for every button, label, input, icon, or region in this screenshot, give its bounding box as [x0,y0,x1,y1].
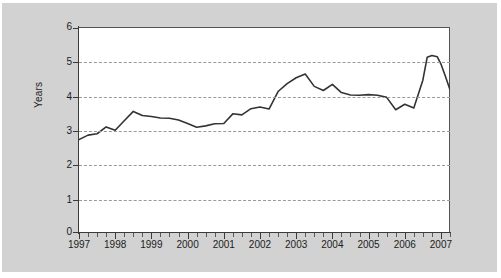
y-tick-label-4: 4 [56,92,72,102]
y-tick-label-6: 6 [56,22,72,32]
x-tick-minor [133,233,134,237]
x-tick-label-2005: 2005 [352,239,386,250]
y-tick-label-1: 1 [56,195,72,205]
x-tick-minor [350,233,351,237]
x-tick-minor [215,233,216,237]
x-tick-minor [106,233,107,237]
y-tick-label-1-wrap: 1 [56,195,72,205]
x-tick-minor [450,233,451,237]
x-tick-minor [251,233,252,237]
x-tick-label-1999: 1999 [134,239,168,250]
y-axis-line [78,26,79,234]
y-axis-title: Years [33,82,44,108]
x-tick-minor [305,233,306,237]
x-tick-minor [378,233,379,237]
y-tick-label-5-wrap: 5 [56,57,72,67]
gridline-4 [79,97,450,98]
x-tick-minor [396,233,397,237]
x-tick-minor [360,233,361,237]
y-tick-label-2-wrap: 2 [56,160,72,170]
x-tick-label-2000: 2000 [171,239,205,250]
x-tick-label-1997: 1997 [62,239,96,250]
x-tick-minor [242,233,243,237]
x-tick-label-1998: 1998 [98,239,132,250]
y-tick-label-0: 0 [56,227,72,237]
x-tick-minor [278,233,279,237]
x-tick-minor [197,233,198,237]
x-tick-minor [160,233,161,237]
y-tick-label-3-wrap: 3 [56,126,72,136]
chart-figure: 6 5 4 3 2 1 0 Years 19971998199920002001… [0,0,501,278]
x-tick-minor [414,233,415,237]
y-tick-label-5: 5 [56,57,72,67]
gridline-5 [79,62,450,63]
y-tick-label-4-wrap: 4 [56,92,72,102]
x-tick-minor [287,233,288,237]
x-tick-minor [387,233,388,237]
gridline-3 [79,131,450,132]
gridline-1 [79,200,450,201]
x-tick-label-2004: 2004 [315,239,349,250]
x-tick-minor [423,233,424,237]
x-axis-line [78,232,451,233]
y-tick-label-6-wrap: 6 [56,22,72,32]
x-tick-label-2003: 2003 [279,239,313,250]
x-tick-label-2007: 2007 [424,239,458,250]
plot-area [79,27,450,233]
y-tick-label-0-wrap: 0 [56,227,72,237]
x-tick-minor [88,233,89,237]
x-tick-minor [233,233,234,237]
gridline-2 [79,165,450,166]
x-tick-minor [206,233,207,237]
x-tick-label-2001: 2001 [207,239,241,250]
x-tick-minor [142,233,143,237]
x-tick-minor [341,233,342,237]
x-tick-minor [323,233,324,237]
x-tick-minor [269,233,270,237]
x-tick-minor [314,233,315,237]
x-tick-minor [179,233,180,237]
x-tick-minor [169,233,170,237]
x-tick-label-2006: 2006 [388,239,422,250]
x-tick-minor [97,233,98,237]
x-tick-minor [124,233,125,237]
x-tick-minor [432,233,433,237]
y-tick-label-3: 3 [56,126,72,136]
y-tick-label-2: 2 [56,160,72,170]
x-tick-label-2002: 2002 [243,239,277,250]
